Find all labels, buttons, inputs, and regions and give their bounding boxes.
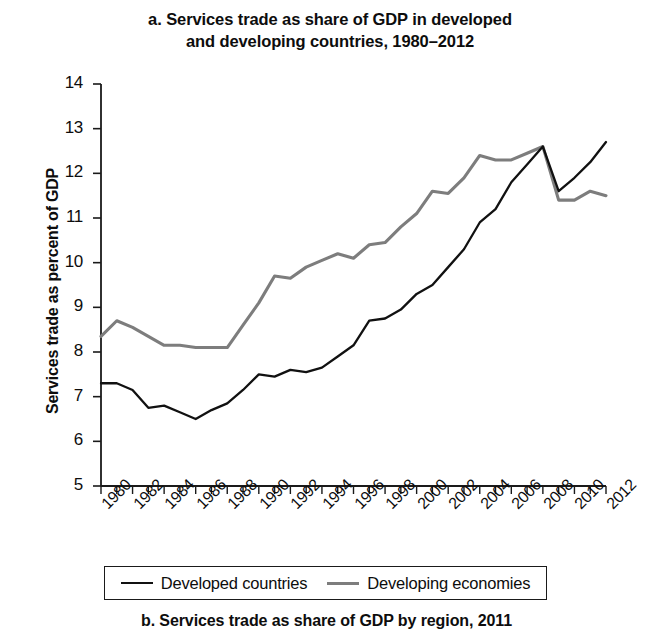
series-line-developed-countries — [101, 142, 606, 419]
y-axis-tick-label: 11 — [49, 207, 83, 227]
legend-item-developing-economies: Developing economies — [327, 574, 530, 593]
chart-title: a. Services trade as share of GDP in dev… — [60, 8, 600, 53]
y-axis-tick-label: 6 — [49, 430, 83, 450]
plot-area: Services trade as percent of GDP 1413121… — [0, 60, 653, 500]
chart-legend: Developed countries Developing economies — [104, 566, 547, 600]
legend-line-swatch-icon — [121, 582, 153, 584]
series-line-developing-economies — [101, 147, 606, 348]
legend-item-developed-countries: Developed countries — [121, 574, 308, 593]
axis-lines — [101, 84, 606, 486]
y-axis-tick-label: 10 — [49, 252, 83, 272]
chart-title-line-1: a. Services trade as share of GDP in dev… — [148, 10, 512, 28]
line-chart-svg — [0, 60, 653, 500]
legend-label-developed-countries: Developed countries — [161, 574, 308, 593]
y-axis-tick-label: 9 — [49, 296, 83, 316]
legend-line-swatch-icon — [327, 582, 359, 585]
y-axis-tick-label: 13 — [49, 118, 83, 138]
y-axis-tick-label: 8 — [49, 341, 83, 361]
y-axis-ticks — [93, 84, 101, 486]
chart-title-line-2: and developing countries, 1980–2012 — [60, 30, 600, 52]
y-axis-tick-label: 12 — [49, 162, 83, 182]
y-axis-tick-label: 7 — [49, 386, 83, 406]
y-axis-tick-label: 14 — [49, 73, 83, 93]
legend-label-developing-economies: Developing economies — [367, 574, 530, 593]
figure-panel-a: a. Services trade as share of GDP in dev… — [0, 0, 653, 640]
panel-b-caption: b. Services trade as share of GDP by reg… — [0, 612, 653, 630]
y-axis-tick-label: 5 — [49, 475, 83, 495]
